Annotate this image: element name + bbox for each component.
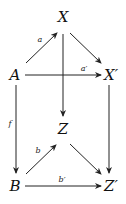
- label-f: f: [8, 119, 14, 128]
- label-b: b: [35, 146, 40, 155]
- arrow-b-to-z: [26, 145, 56, 174]
- node-xprime: X′: [103, 66, 119, 84]
- node-zprime: Z′: [103, 177, 118, 195]
- label-bprime: b′: [59, 175, 66, 184]
- node-z: Z: [57, 120, 69, 138]
- label-a: a: [38, 35, 43, 44]
- label-aprime: a′: [81, 64, 88, 73]
- commutative-diagram: X A X′ Z B Z′ a a′ f b b′: [0, 0, 126, 204]
- arrow-x-to-xprime: [70, 33, 101, 63]
- node-x: X: [57, 8, 70, 26]
- node-a: A: [8, 66, 21, 84]
- arrow-z-to-zprime: [70, 144, 101, 174]
- node-b: B: [8, 177, 20, 195]
